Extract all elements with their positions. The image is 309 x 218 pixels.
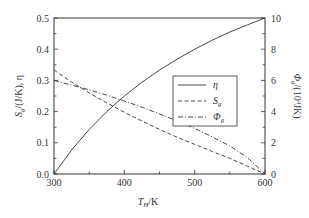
chart: 3004005006000.00.10.20.30.40.50246810 TH…	[0, 0, 309, 218]
y-left-tick-label: 0.3	[37, 75, 50, 86]
y-left-tick-label: 0.2	[37, 106, 50, 117]
y-left-tick-label: 0.1	[37, 137, 50, 148]
y-axis-right-label: Φg/(104JK)	[290, 73, 303, 118]
svg-text:η: η	[213, 79, 218, 90]
y-axis-left-label: Sg/(J/K), η	[13, 75, 26, 117]
y-left-tick-label: 0.0	[37, 169, 50, 180]
legend: η Sg Φg	[173, 76, 237, 126]
x-axis-label: TH/K	[138, 196, 159, 209]
x-tick-label: 500	[187, 177, 202, 188]
y-right-tick-label: 8	[271, 44, 276, 55]
y-right-tick-label: 0	[271, 169, 276, 180]
x-tick-label: 400	[117, 177, 132, 188]
y-right-tick-label: 2	[271, 137, 276, 148]
y-left-tick-label: 0.5	[37, 13, 50, 24]
y-right-tick-label: 10	[271, 13, 281, 24]
tick-labels: 3004005006000.00.10.20.30.40.50246810	[37, 13, 282, 189]
y-right-tick-label: 6	[271, 75, 276, 86]
y-right-tick-label: 4	[271, 106, 276, 117]
y-left-tick-label: 0.4	[37, 44, 50, 55]
